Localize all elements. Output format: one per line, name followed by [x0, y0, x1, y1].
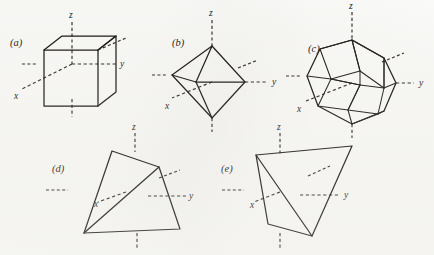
- tetrahedron-internal-edge-e: [256, 155, 312, 236]
- cube-front-face-a: [44, 50, 98, 106]
- panel-a-axis-z-label: z: [68, 10, 73, 20]
- panel-c: (c) z y x: [286, 1, 424, 138]
- panel-e: (e) z y x: [221, 122, 352, 250]
- panel-d-label: (d): [52, 163, 65, 175]
- cuboctahedron-edge-tl-left-c: [307, 76, 331, 79]
- panel-a-axis-y-label: y: [119, 59, 125, 69]
- panel-d-axis-x-label: x: [93, 199, 99, 209]
- panel-c-axis-x-label: x: [296, 104, 302, 114]
- octahedron-edge-center-bottom-b: [196, 82, 212, 118]
- cuboctahedron-face-bottom-right-c: [348, 85, 384, 114]
- cuboctahedron-face-top-right-c: [352, 40, 384, 88]
- panel-a: (a) z y x: [10, 10, 126, 117]
- panel-d-axes: [46, 133, 186, 250]
- cube-top-face-a: [44, 36, 116, 50]
- panel-d-axis-z-label: z: [131, 122, 136, 132]
- cuboctahedron-edge-center-left-c: [331, 79, 360, 85]
- panel-d-axis-y-label: y: [188, 191, 194, 201]
- polyhedra-figure: (a) z y x (b): [0, 0, 434, 255]
- panel-a-label: (a): [10, 37, 23, 49]
- octahedron-solid-b: [172, 46, 245, 118]
- axis-x-back-line-e: [308, 166, 330, 176]
- panel-a-axis-x-label: x: [13, 91, 19, 101]
- panel-b-axis-x-label: x: [164, 101, 170, 111]
- cuboctahedron-solid-c: [307, 40, 396, 124]
- tetrahedron-solid-e: [256, 146, 352, 236]
- panel-b-label: (b): [172, 37, 185, 49]
- panel-e-axis-y-label: y: [343, 190, 349, 200]
- panel-b: (b) z y x: [152, 8, 277, 132]
- panel-e-axis-z-label: z: [276, 122, 281, 132]
- panel-d: (d) z y x: [46, 122, 194, 250]
- panel-c-axis-z-label: z: [348, 1, 353, 11]
- panel-c-axes: [286, 12, 414, 138]
- panel-c-axis-y-label: y: [418, 78, 424, 88]
- panel-e-axis-x-label: x: [249, 200, 255, 210]
- axis-x-back-line-b: [238, 60, 258, 68]
- axis-x-line-e: [254, 192, 280, 202]
- panel-e-label: (e): [221, 163, 233, 175]
- cuboctahedron-edge-bl-lower-c: [352, 114, 378, 124]
- panel-b-axis-y-label: y: [271, 77, 277, 87]
- cube-right-face-a: [98, 36, 116, 106]
- figure-root: (a) z y x (b): [0, 0, 434, 255]
- panel-c-label: (c): [308, 43, 320, 55]
- tetrahedron-outline-e: [256, 146, 352, 236]
- tetrahedron-solid-d: [84, 151, 180, 233]
- axis-x-line-a: [22, 64, 72, 89]
- panel-b-axis-z-label: z: [208, 8, 213, 18]
